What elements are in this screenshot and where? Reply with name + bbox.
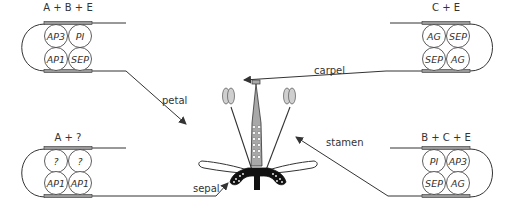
abce-model-diagram: A + B + E AP3 PI AP1 SEP C + E AG SEP SE…	[0, 0, 513, 208]
protein-label: SEP	[71, 54, 89, 65]
complex-bar-top	[44, 147, 92, 150]
arrow-label-stamen: stamen	[326, 137, 364, 148]
complex-bar-top	[44, 22, 92, 25]
complex-bar-bottom	[44, 70, 92, 73]
flower-illustration	[199, 80, 317, 190]
protein-label: AP1	[46, 54, 65, 65]
arrow-label-sepal: sepal	[193, 183, 220, 194]
complex-label-petal: A + B + E	[43, 2, 93, 13]
complex-label-stamen: B + C + E	[421, 132, 471, 143]
protein-label: AP3	[448, 156, 467, 167]
carpel-icon	[251, 84, 262, 166]
stigma-icon	[252, 80, 260, 84]
complex-carpel: C + E AG SEP SEP AG	[244, 2, 493, 80]
protein-label: AP3	[46, 31, 65, 42]
complex-bar-bottom	[422, 195, 470, 198]
protein-label: AP1	[46, 178, 65, 189]
protein-label: ?	[53, 156, 58, 167]
dna-loop	[470, 24, 493, 71]
arrow-label-carpel: carpel	[314, 65, 345, 76]
protein-label: AG	[450, 178, 465, 189]
anther-left-icon	[223, 88, 235, 104]
complex-label-carpel: C + E	[432, 2, 460, 13]
protein-label: SEP	[425, 178, 443, 189]
stamen-filament	[266, 107, 290, 170]
dna-loop	[22, 24, 45, 71]
complex-bar-bottom	[44, 195, 92, 198]
arrow-label-petal: petal	[162, 95, 187, 106]
complex-bar-top	[422, 147, 470, 150]
protein-label: PI	[430, 156, 439, 167]
protein-label: ?	[77, 156, 82, 167]
protein-label: SEP	[425, 54, 443, 65]
dna-loop	[470, 149, 493, 197]
complex-label-sepal: A + ?	[55, 132, 82, 143]
pedicel-icon	[254, 176, 260, 190]
anther-right-icon	[284, 88, 296, 104]
protein-label: PI	[76, 31, 85, 42]
complex-bar-top	[422, 22, 470, 25]
complex-bar-bottom	[422, 70, 470, 73]
protein-label: AP1	[70, 178, 89, 189]
protein-label: AG	[450, 54, 465, 65]
stamen-filament	[231, 107, 252, 170]
protein-label: SEP	[449, 31, 467, 42]
protein-label: AG	[426, 31, 441, 42]
dna-loop	[22, 149, 45, 197]
